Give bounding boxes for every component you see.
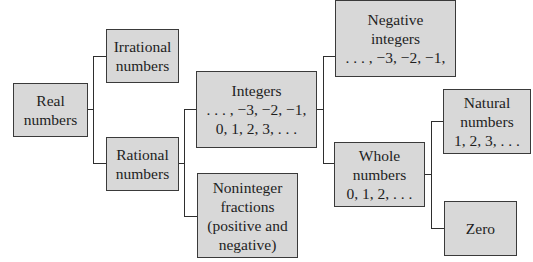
node-zero: Zero [444,201,517,256]
number-classification-tree: Real numbers Irrational numbers Rational… [0,0,533,262]
node-noninteger-fractions: Noninteger fractions (positive and negat… [197,173,298,258]
node-label-line: 0, 1, 2, 3, . . . [216,119,297,138]
node-label-line: (positive and [207,216,288,235]
connector [431,121,432,229]
node-label-line: . . . , −3, −2, −1, [346,48,446,67]
node-label-line: Real [36,91,64,110]
node-label-line: Integers [232,81,282,100]
node-whole-numbers: Whole numbers 0, 1, 2, . . . [334,142,425,207]
node-label-line: fractions [220,197,274,216]
node-label-line: numbers [116,56,169,75]
node-label-line: numbers [353,165,406,184]
node-label-line: Whole [359,146,400,165]
connector [323,56,335,57]
node-label-line: Zero [466,219,495,238]
connector [323,56,324,164]
node-label-line: Natural [464,93,510,112]
node-label-line: Noninteger [213,178,283,197]
node-label-line: integers [371,29,420,48]
node-label-line: 0, 1, 2, . . . [347,184,413,203]
node-label-line: Negative [368,10,424,29]
connector [93,56,94,164]
node-irrational-numbers: Irrational numbers [106,29,179,83]
node-negative-integers: Negative integers . . . , −3, −2, −1, [335,0,456,77]
node-label-line: . . . , −3, −2, −1, [207,100,307,119]
node-label-line: 1, 2, 3, . . . [454,131,520,150]
node-natural-numbers: Natural numbers 1, 2, 3, . . . [443,89,531,154]
connector [93,163,106,164]
connector [93,56,106,57]
node-rational-numbers: Rational numbers [106,137,179,191]
node-label-line: numbers [24,110,77,129]
connector [184,216,197,217]
node-label-line: numbers [460,112,513,131]
node-label-line: negative) [219,235,277,254]
node-label-line: numbers [116,164,169,183]
node-label-line: Rational [116,145,169,164]
node-integers: Integers . . . , −3, −2, −1, 0, 1, 2, 3,… [196,71,317,148]
connector [184,109,185,217]
connector [431,228,444,229]
node-label-line: Irrational [114,37,172,56]
node-real-numbers: Real numbers [13,83,88,137]
